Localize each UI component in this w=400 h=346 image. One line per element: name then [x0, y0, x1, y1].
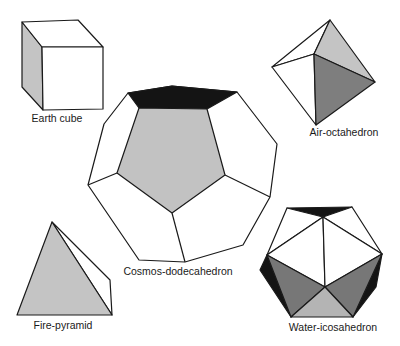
octahedron-front-left-face [272, 54, 316, 125]
water-icosahedron-label: Water-icosahedron [289, 321, 377, 333]
fire-pyramid-figure: Fire-pyramid [17, 222, 112, 331]
water-icosahedron-figure: Water-icosahedron [260, 207, 382, 333]
air-octahedron-figure: Air-octahedron [272, 20, 379, 138]
cosmos-dodecahedron-figure: Cosmos-dodecahedron [88, 86, 277, 277]
cosmos-dodecahedron-label: Cosmos-dodecahedron [123, 265, 232, 277]
platonic-solids-diagram: Earth cube Air-octahedron Cosmos-dodecah… [0, 0, 400, 346]
air-octahedron-label: Air-octahedron [310, 126, 379, 138]
earth-cube-label: Earth cube [32, 112, 83, 124]
fire-pyramid-label: Fire-pyramid [34, 319, 93, 331]
cube-front-face [42, 47, 103, 110]
earth-cube-figure: Earth cube [22, 20, 103, 124]
